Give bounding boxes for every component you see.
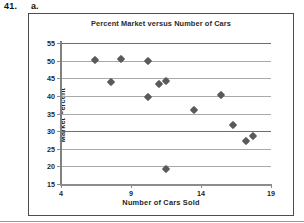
y-tick-label: 25: [47, 144, 55, 153]
y-tick-label: 30: [47, 127, 55, 136]
y-tick-label: 50: [47, 56, 55, 65]
x-tick-label: 4: [59, 189, 63, 198]
x-axis-title: Number of Cars Sold: [29, 198, 293, 207]
y-tick-25: [57, 149, 61, 150]
x-tick-label: 14: [197, 189, 205, 198]
y-tick-50: [57, 61, 61, 62]
y-tick-label: 55: [47, 39, 55, 48]
x-tick-label: 9: [129, 189, 133, 198]
gridline-y-35: [61, 114, 271, 115]
x-tick-14: [201, 184, 202, 188]
x-axis-line: [60, 184, 272, 186]
page-divider: [0, 221, 304, 222]
x-tick-label: 19: [267, 189, 275, 198]
y-tick-label: 15: [47, 180, 55, 189]
chart-title: Percent Market versus Number of Cars: [29, 19, 293, 28]
y-tick-30: [57, 131, 61, 132]
problem-number: 41.: [4, 1, 17, 11]
x-tick-9: [131, 184, 132, 188]
x-tick-4: [61, 184, 62, 188]
data-point: [242, 137, 250, 145]
gridline-y-30: [61, 131, 271, 132]
y-tick-55: [57, 43, 61, 44]
y-tick-35: [57, 114, 61, 115]
y-tick-label: 45: [47, 74, 55, 83]
y-tick-label: 20: [47, 162, 55, 171]
data-point: [144, 56, 152, 64]
problem-part-label: a.: [31, 1, 39, 11]
data-point: [216, 91, 224, 99]
y-tick-40: [57, 96, 61, 97]
data-point: [117, 55, 125, 63]
data-point: [90, 55, 98, 63]
gridline-y-40: [61, 96, 271, 97]
gridline-y-25: [61, 149, 271, 150]
y-tick-45: [57, 78, 61, 79]
y-tick-label: 35: [47, 109, 55, 118]
data-point: [249, 131, 257, 139]
y-tick-20: [57, 166, 61, 167]
data-point: [229, 121, 237, 129]
data-point: [144, 93, 152, 101]
gridline-y-55: [61, 43, 271, 44]
x-tick-19: [271, 184, 272, 188]
y-tick-label: 40: [47, 91, 55, 100]
plot-area: 152025303540455055 491419: [61, 43, 271, 184]
chart-figure: Percent Market versus Number of Cars Mar…: [28, 13, 294, 216]
